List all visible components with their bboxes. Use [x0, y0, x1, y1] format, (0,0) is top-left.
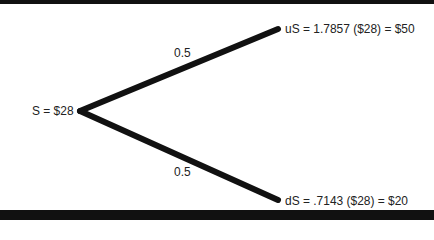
down-branch [80, 111, 278, 200]
root-node-label: S = $28 [32, 103, 74, 118]
bottom-border-rule [0, 210, 434, 220]
up-branch [80, 29, 278, 111]
down-probability-label: 0.5 [174, 164, 191, 179]
down-node-label: dS = .7143 ($28) = $20 [285, 193, 408, 208]
up-node-label: uS = 1.7857 ($28) = $50 [285, 21, 415, 36]
up-probability-label: 0.5 [174, 45, 191, 60]
